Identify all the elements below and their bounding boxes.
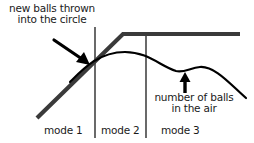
- arrow-balls-in-air-icon: [180, 72, 191, 93]
- annotation-balls-in-air: number of balls in the air: [151, 92, 237, 114]
- annotation-balls-in-air-line2: in the air: [151, 103, 237, 114]
- arrow-new-balls-icon: [54, 40, 90, 65]
- mode-label-2: mode 2: [101, 124, 140, 136]
- annotation-new-balls: new balls thrown into the circle: [4, 3, 100, 25]
- mode-label-1: mode 1: [44, 124, 83, 136]
- annotation-new-balls-line2: into the circle: [4, 14, 100, 25]
- mode-label-3: mode 3: [161, 124, 200, 136]
